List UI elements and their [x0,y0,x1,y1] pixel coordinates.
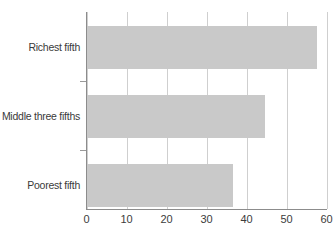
bar-middle-three-fifths [87,95,266,138]
plot-area [87,12,327,209]
bar-richest-fifth [87,26,317,69]
category-label-middle-three-fifths: Middle three fifths [2,110,80,122]
category-label-poorest-fifth: Poorest fifth [27,179,80,191]
x-axis-line [86,209,327,210]
gridline-60 [327,12,328,209]
x-tick-label-40: 40 [241,213,253,225]
x-tick-label-30: 30 [201,213,213,225]
bar-chart: 0 10 20 30 40 50 60 Richest fifth Middle… [0,0,336,239]
x-tick-label-10: 10 [121,213,133,225]
x-tick-label-0: 0 [84,213,90,225]
category-label-column: Richest fifth Middle three fifths Poores… [0,0,80,239]
x-tick-label-60: 60 [321,213,333,225]
x-tick-label-20: 20 [161,213,173,225]
y-axis-tick-lower [80,150,86,151]
x-tick-label-50: 50 [281,213,293,225]
y-axis-tick-upper [80,81,86,82]
bar-poorest-fifth [87,164,233,207]
category-label-richest-fifth: Richest fifth [28,41,80,53]
y-axis-line [86,12,88,210]
